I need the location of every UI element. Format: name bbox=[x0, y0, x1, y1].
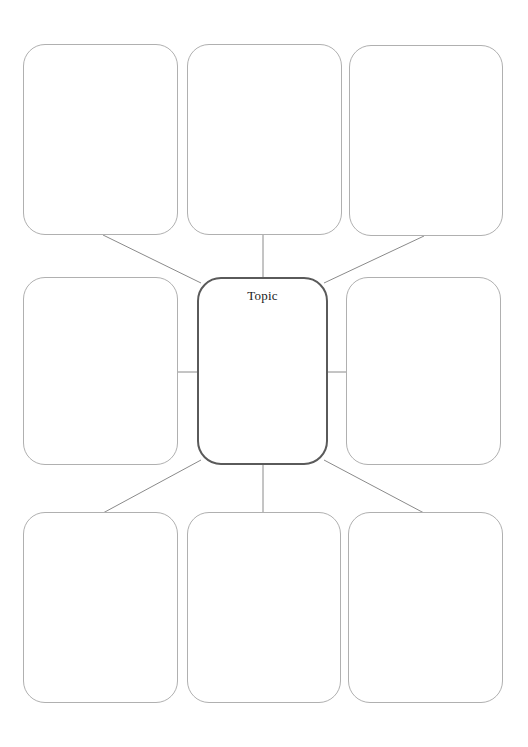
node-bottom-left[interactable] bbox=[23, 512, 178, 703]
connector-bottom-left bbox=[103, 460, 201, 513]
center-topic[interactable]: Topic bbox=[197, 277, 328, 465]
connector-bottom-right bbox=[324, 460, 424, 513]
node-middle-right[interactable] bbox=[346, 277, 501, 465]
node-top-left[interactable] bbox=[23, 44, 178, 235]
node-bottom-center[interactable] bbox=[187, 512, 341, 703]
connector-top-left bbox=[103, 235, 201, 283]
node-top-right[interactable] bbox=[349, 45, 503, 236]
connector-top-right bbox=[324, 236, 424, 283]
center-topic-label: Topic bbox=[199, 288, 326, 303]
worksheet-canvas: Topic bbox=[0, 0, 528, 747]
node-middle-left[interactable] bbox=[23, 277, 178, 465]
node-bottom-right[interactable] bbox=[348, 512, 503, 703]
node-top-center[interactable] bbox=[187, 44, 342, 235]
